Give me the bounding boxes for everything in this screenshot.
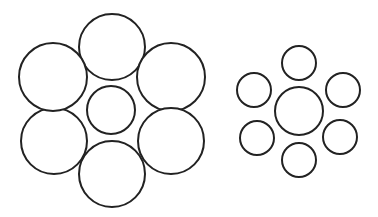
surround-circle (282, 46, 316, 80)
surround-circle (326, 73, 360, 107)
surround-circle (137, 43, 205, 111)
ebbinghaus-illusion-figure (0, 0, 378, 217)
surround-circle (21, 108, 87, 174)
small-surround-cluster (237, 46, 360, 177)
surround-circle (237, 73, 271, 107)
surround-circle (138, 108, 204, 174)
center-circle (87, 86, 135, 134)
surround-circle (79, 14, 145, 80)
large-surround-cluster (19, 14, 205, 207)
surround-circle (282, 143, 316, 177)
surround-circle (19, 43, 87, 111)
surround-circle (240, 121, 274, 155)
illusion-canvas (0, 0, 378, 217)
surround-circle (79, 141, 145, 207)
center-circle (275, 87, 323, 135)
surround-circle (323, 120, 357, 154)
